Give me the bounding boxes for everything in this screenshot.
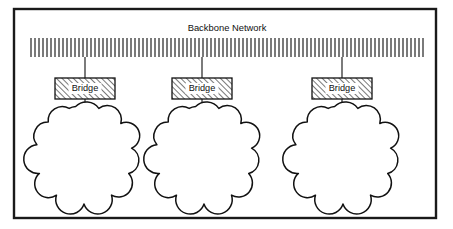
backbone-network-bus (31, 38, 423, 57)
network-cloud-icon (144, 102, 260, 214)
bridge-label: Bridge (329, 83, 356, 93)
bridge-nodes: BridgeBridgeBridge (55, 78, 372, 99)
bridge-label: Bridge (72, 83, 99, 93)
bridge-node: Bridge (172, 78, 232, 99)
bridge-node: Bridge (312, 78, 372, 99)
network-cloud-icon (283, 102, 399, 214)
network-clouds (24, 102, 399, 214)
bridge-node: Bridge (55, 78, 115, 99)
network-cloud-icon (24, 102, 140, 214)
diagram-canvas: Backbone Network BridgeBridgeBridge (0, 0, 453, 229)
bridged-backbone-network-diagram: Backbone Network BridgeBridgeBridge (0, 0, 453, 229)
bridge-label: Bridge (189, 83, 216, 93)
diagram-title: Backbone Network (188, 22, 267, 33)
